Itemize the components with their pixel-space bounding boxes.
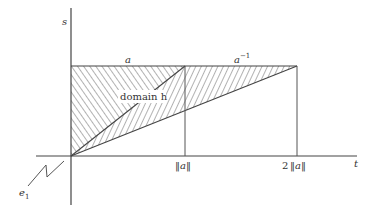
tick-label-two-prefix: 2 [282,160,288,171]
vertical-axis-label: s [62,16,67,27]
corner-label-e-subscript: 1 [25,193,29,201]
tick-label-norm-a: ‖a‖ [175,160,191,172]
tick-label-two-norm-a: ‖a‖ [290,160,306,172]
top-label-a: a [125,54,131,65]
horizontal-axis-label: t [354,158,359,169]
region-label: domain h [120,91,168,102]
e1-zigzag-icon [28,161,64,186]
domain-diagram: s t a a −1 domain h ‖a‖ 2 ‖a‖ e 1 [0,0,374,214]
top-label-a-inverse-exponent: −1 [240,52,250,60]
